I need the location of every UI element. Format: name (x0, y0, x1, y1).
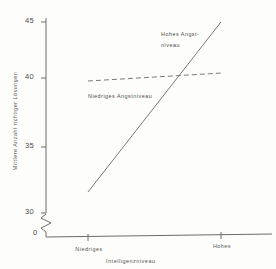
chart-figure: 45 40 35 30 0 Mittlere Anzahl richtiger … (0, 0, 276, 269)
y-tick-label-30: 30 (25, 207, 34, 216)
x-axis-title: Intelligenzniveau (106, 258, 156, 264)
series-annotation-hohes-angstniveau-line1: Hohes Angst- (161, 31, 199, 37)
y-tick-label-35: 35 (25, 141, 34, 150)
series-line-niedriges-angstniveau (88, 73, 222, 81)
axis-break-zigzag (41, 214, 51, 232)
y-tick-label-40: 40 (25, 72, 34, 81)
series-line-hohes-angstniveau (88, 22, 221, 192)
y-tick-label-origin: 0 (33, 228, 37, 237)
y-tick-label-45: 45 (25, 16, 34, 25)
chart-canvas (0, 0, 276, 269)
series-annotation-niedriges-angstniveau: Niedriges Angstniveau (88, 93, 152, 99)
y-axis-title-wrapper: Mittlere Anzahl richtiger Lösungen (12, 60, 18, 182)
x-category-label-hohes: Hohes (203, 243, 241, 249)
series-annotation-hohes-angstniveau-line2: niveau (161, 42, 180, 48)
x-axis-line (46, 234, 272, 237)
x-category-label-niedriges: Niedriges (68, 246, 110, 252)
y-axis-title: Mittlere Anzahl richtiger Lösungen (12, 60, 18, 182)
